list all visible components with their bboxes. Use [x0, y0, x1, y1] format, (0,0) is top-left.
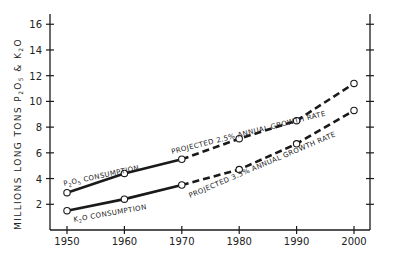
y-tick-label: 4: [36, 174, 42, 185]
data-point-marker: [179, 182, 185, 188]
data-point-marker: [351, 80, 357, 86]
x-tick-label: 1980: [226, 236, 251, 247]
x-ticks: 195019601970198019902000: [54, 226, 366, 247]
series-1-projected-line: [182, 110, 354, 185]
y-tick-label: 12: [29, 71, 42, 82]
x-tick-label: 2000: [341, 236, 366, 247]
data-point-marker: [179, 156, 185, 162]
y-tick-label: 16: [29, 19, 42, 30]
x-tick-label: 1970: [169, 236, 194, 247]
x-tick-label: 1960: [112, 236, 137, 247]
y-tick-label: 2: [36, 199, 42, 210]
p2o5-consumption-label: P2O5 CONSUMPTION: [63, 164, 140, 189]
data-point-marker: [64, 208, 70, 214]
y-tick-label: 14: [29, 45, 42, 56]
data-point-marker: [121, 196, 127, 202]
y-tick-label: 10: [29, 96, 42, 107]
x-tick-label: 1950: [54, 236, 79, 247]
data-point-marker: [351, 107, 357, 113]
y-tick-label: 6: [36, 148, 42, 159]
series-0-projected-line: [182, 83, 354, 159]
plot-frame: [50, 14, 370, 230]
y-tick-label: 8: [36, 122, 42, 133]
y-axis-label: MILLIONS LONG TONS P2O5 & K2O: [13, 38, 24, 230]
data-point-marker: [64, 190, 70, 196]
x-tick-label: 1990: [284, 236, 309, 247]
chart: 246810121416 195019601970198019902000 MI…: [0, 0, 393, 259]
